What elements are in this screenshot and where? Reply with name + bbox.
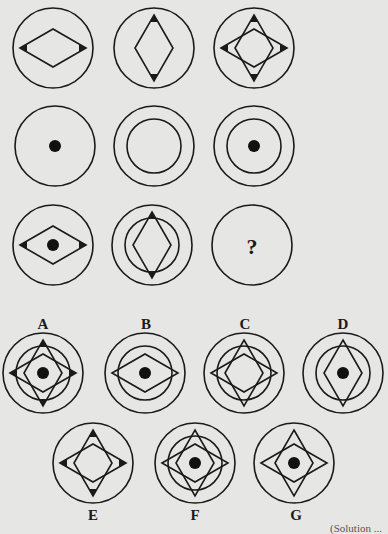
cell-r3c1	[13, 205, 93, 285]
option-a-label[interactable]: A	[38, 317, 49, 332]
cell-r2c1	[15, 106, 95, 186]
option-f-label[interactable]: F	[190, 508, 199, 523]
footer-partial-text: (Solution ...	[330, 522, 382, 534]
option-c-figure[interactable]	[204, 333, 284, 413]
option-g-figure[interactable]	[254, 423, 334, 503]
cell-r3c2	[112, 205, 192, 285]
cell-r1c3	[214, 8, 294, 88]
cell-r2c3	[214, 106, 294, 186]
option-b-label[interactable]: B	[141, 317, 151, 332]
option-a-figure[interactable]	[3, 333, 83, 413]
cell-r2c2	[114, 106, 194, 186]
option-e-figure[interactable]	[53, 423, 133, 503]
option-g-label[interactable]: G	[290, 508, 302, 523]
option-d-figure[interactable]	[303, 333, 383, 413]
option-c-label[interactable]: C	[240, 317, 251, 332]
option-f-figure[interactable]	[155, 423, 235, 503]
option-e-label[interactable]: E	[88, 508, 98, 523]
option-b-figure[interactable]	[105, 333, 185, 413]
option-d-label[interactable]: D	[338, 317, 349, 332]
missing-cell-question-mark: ?	[247, 236, 258, 258]
cell-r1c1	[13, 8, 93, 88]
cell-r1c2	[114, 8, 194, 88]
